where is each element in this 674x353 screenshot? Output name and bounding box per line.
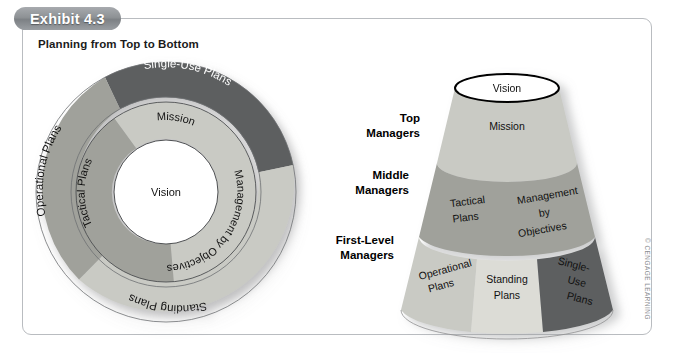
circle-diagram: Single-Use Plans Standing Plans Operatio…: [33, 57, 296, 322]
copyright-notice: © CENGAGE LEARNING: [644, 238, 651, 320]
exhibit-badge: Exhibit 4.3: [14, 7, 121, 30]
manager-level-labels: Top Managers Middle Managers First-Level…: [336, 112, 420, 261]
manager-label-top-line2: Managers: [366, 127, 420, 139]
manager-label-middle-line1: Middle: [373, 169, 409, 181]
manager-label-middle-line2: Managers: [355, 184, 409, 196]
cone-label-mission: Mission: [489, 120, 525, 132]
cone-label-standing-plans-line1: Standing: [486, 273, 528, 285]
diagrams-canvas: Single-Use Plans Standing Plans Operatio…: [0, 0, 674, 353]
manager-label-top-line1: Top: [400, 112, 420, 124]
manager-label-first-level-line1: First-Level: [336, 234, 394, 246]
exhibit-figure: Exhibit 4.3 Planning from Top to Bottom: [0, 0, 674, 353]
cone-label-standing-plans-line2: Plans: [494, 289, 520, 301]
circle-center-label: Vision: [151, 186, 181, 198]
cone-top-label: Vision: [493, 82, 522, 94]
manager-label-first-level-line2: Managers: [340, 249, 394, 261]
